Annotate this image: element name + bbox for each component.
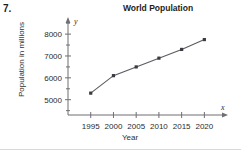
x-tick-label: 1995 [82, 122, 100, 131]
y-tick-label: 5000 [44, 96, 62, 105]
data-point-marker [157, 57, 160, 60]
y-axis-arrowhead [66, 17, 71, 23]
x-tick-label: 2020 [195, 122, 213, 131]
x-tick-label: 2010 [150, 122, 168, 131]
data-series-line [91, 40, 205, 94]
y-tick-label: 8000 [44, 30, 62, 39]
x-tick-label: 2000 [105, 122, 123, 131]
x-tick-label: 2015 [173, 122, 191, 131]
data-point-marker [112, 74, 115, 77]
figure-container: 7. World Population Population in millio… [0, 0, 241, 150]
data-point-marker [89, 92, 92, 95]
y-axis: y [66, 17, 78, 115]
x-tick-label: 2005 [127, 122, 145, 131]
y-tick-label: 6000 [44, 74, 62, 83]
x-axis-arrowhead [222, 113, 228, 118]
data-point-marker [135, 65, 138, 68]
data-point-marker [180, 48, 183, 51]
y-axis-letter: y [73, 17, 78, 26]
y-tick-label: 7000 [44, 52, 62, 61]
x-axis-letter: x [220, 103, 225, 112]
y-axis-ticks: 5000600070008000 [44, 30, 71, 105]
line-chart-plot: y x 5000600070008000 1995200020052010201… [0, 0, 241, 150]
data-point-marker [203, 38, 206, 41]
